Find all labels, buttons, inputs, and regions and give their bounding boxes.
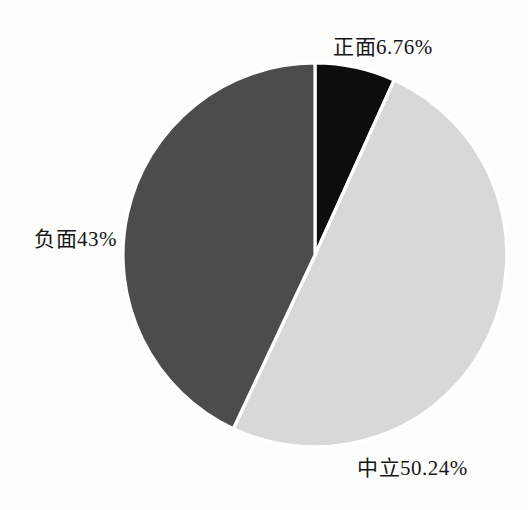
- slice-label-negative: 负面43%: [34, 227, 117, 251]
- pie-chart: [0, 0, 528, 510]
- slice-label-positive: 正面6.76%: [333, 35, 433, 59]
- slice-label-neutral: 中立50.24%: [357, 456, 468, 480]
- pie-figure: 正面6.76% 负面43% 中立50.24%: [0, 0, 528, 510]
